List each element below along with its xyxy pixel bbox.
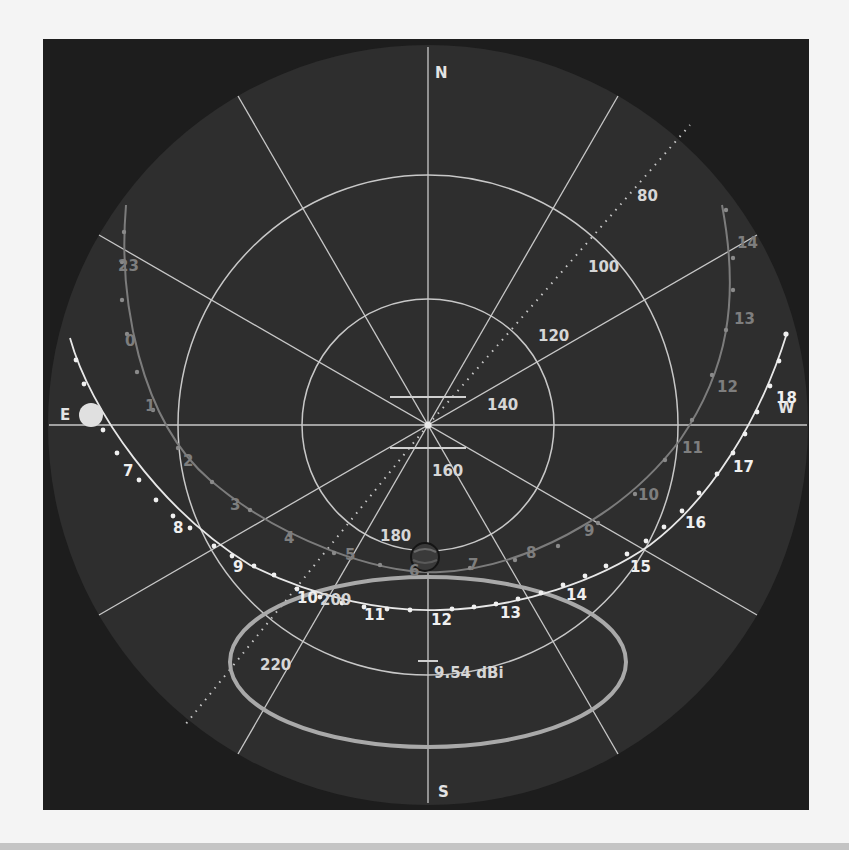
- svg-text:7: 7: [123, 462, 133, 480]
- svg-text:1: 1: [145, 397, 155, 415]
- svg-text:0: 0: [125, 332, 135, 350]
- compass-east: E: [60, 406, 70, 424]
- svg-text:15: 15: [630, 558, 651, 576]
- svg-text:12: 12: [717, 378, 738, 396]
- center-point: [425, 422, 432, 429]
- svg-text:18: 18: [776, 389, 797, 407]
- svg-text:11: 11: [682, 439, 703, 457]
- svg-text:3: 3: [230, 496, 240, 514]
- svg-text:10: 10: [638, 486, 659, 504]
- sun-marker[interactable]: [79, 403, 103, 427]
- svg-text:2: 2: [183, 452, 193, 470]
- svg-text:8: 8: [173, 519, 183, 537]
- svg-text:4: 4: [284, 529, 294, 547]
- svg-text:220: 220: [260, 656, 291, 674]
- svg-text:16: 16: [685, 514, 706, 532]
- svg-text:17: 17: [733, 458, 754, 476]
- svg-text:12: 12: [431, 611, 452, 629]
- svg-text:160: 160: [432, 462, 463, 480]
- gain-label: 9.54 dBi: [434, 664, 504, 682]
- svg-text:10: 10: [297, 589, 318, 607]
- svg-text:14: 14: [737, 234, 758, 252]
- svg-text:200: 200: [320, 591, 351, 609]
- svg-text:11: 11: [364, 606, 385, 624]
- svg-text:80: 80: [637, 187, 658, 205]
- svg-text:100: 100: [588, 258, 619, 276]
- svg-text:140: 140: [487, 396, 518, 414]
- polar-sky-chart[interactable]: N S E W 80 100 120 140 160 180 200 220 7…: [0, 0, 849, 850]
- svg-text:14: 14: [566, 586, 587, 604]
- svg-text:120: 120: [538, 327, 569, 345]
- svg-text:6: 6: [409, 562, 419, 580]
- svg-text:13: 13: [500, 604, 521, 622]
- svg-text:23: 23: [118, 257, 139, 275]
- svg-text:13: 13: [734, 310, 755, 328]
- compass-south: S: [438, 783, 449, 801]
- svg-text:7: 7: [468, 556, 478, 574]
- compass-north: N: [435, 64, 448, 82]
- svg-text:9: 9: [584, 522, 594, 540]
- svg-text:5: 5: [345, 546, 355, 564]
- svg-text:180: 180: [380, 527, 411, 545]
- svg-text:8: 8: [526, 544, 536, 562]
- svg-text:9: 9: [233, 558, 243, 576]
